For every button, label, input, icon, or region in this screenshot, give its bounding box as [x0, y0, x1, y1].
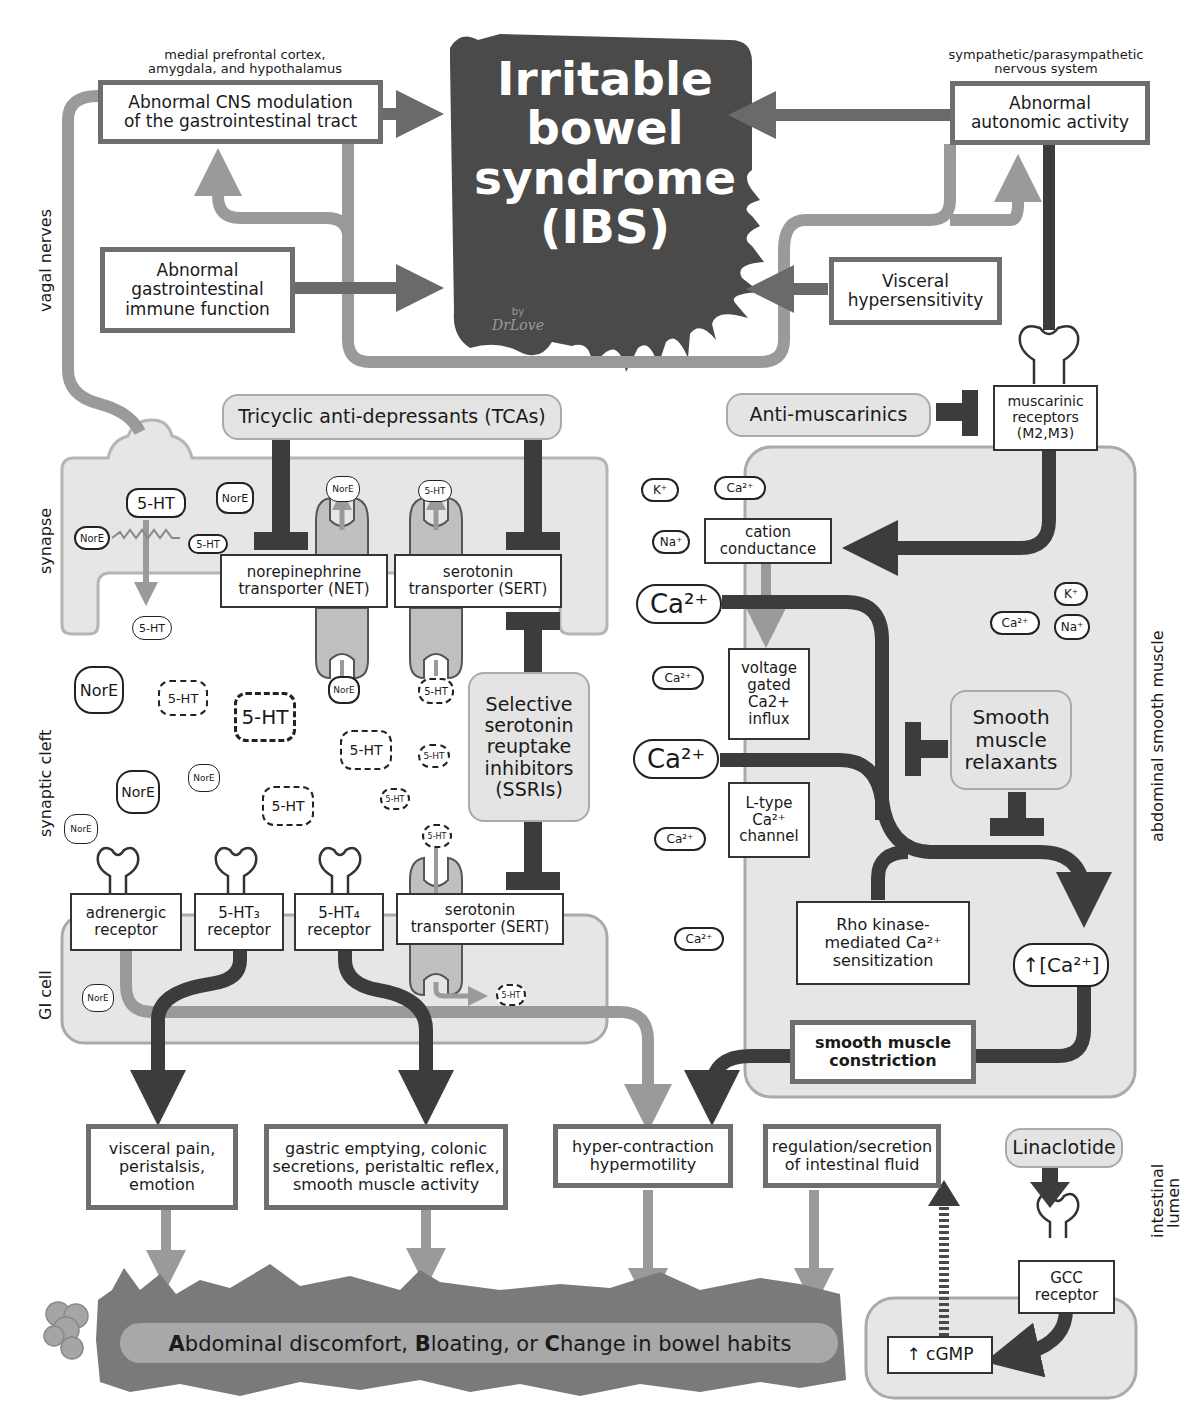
- gastric-line3: smooth muscle activity: [293, 1176, 479, 1194]
- muscarinic-receptors-box: muscarinic receptors (M2,M3): [993, 385, 1098, 451]
- visceral-line1: Visceral: [882, 272, 949, 291]
- 5ht4-line1: 5-HT₄: [318, 905, 359, 922]
- autonomic-box-line1: Abnormal: [1009, 94, 1091, 113]
- smooth-muscle-relaxants-label: Smooth muscle relaxants: [950, 690, 1072, 790]
- ibs-title-line1: Irritable: [470, 54, 740, 103]
- adrenergic-receptor-box: adrenergic receptor: [70, 893, 182, 951]
- autonomic-caption: sympathetic/parasympathetic nervous syst…: [940, 48, 1152, 77]
- ht-molecule: 5-HT: [340, 730, 392, 770]
- synapse-label: synapse: [36, 508, 55, 574]
- cation-conductance-box: cation conductance: [704, 518, 832, 564]
- fluid-line2: of intestinal fluid: [785, 1156, 920, 1174]
- ht-molecule: 5-HT: [234, 692, 296, 742]
- rho-line3: sensitization: [833, 952, 934, 970]
- nore-molecule: NorE: [188, 764, 220, 792]
- ssri-line5: (SSRIs): [495, 779, 563, 800]
- ssri-line1: Selective: [486, 694, 573, 715]
- visceral-pain-line1: visceral pain,: [109, 1140, 215, 1158]
- ht-molecule: 5-HT: [422, 824, 452, 848]
- nore-molecule: NorE: [74, 526, 110, 550]
- abdominal-smooth-muscle-label: abdominal smooth muscle: [1148, 630, 1167, 842]
- immune-line2: gastrointestinal: [131, 280, 264, 299]
- constriction-line2: constriction: [829, 1052, 936, 1070]
- nore-molecule: NorE: [216, 482, 254, 514]
- adrenergic-line2: receptor: [94, 922, 157, 939]
- ltype-line3: channel: [739, 828, 798, 845]
- visceral-hypersensitivity-box: Visceral hypersensitivity: [829, 257, 1002, 325]
- ht-molecule-large: 5-HT: [126, 488, 186, 518]
- hyper-contraction-box: hyper-contraction hypermotility: [553, 1124, 733, 1188]
- ca-ion: Ca²⁺: [714, 476, 766, 500]
- ibs-title-line2: bowel: [470, 103, 740, 152]
- gastric-line2: secretions, peristaltic reflex,: [273, 1158, 500, 1176]
- nore-molecule: NorE: [328, 676, 360, 704]
- symptom-bar-text: Abdominal discomfort, Bloating, or Chang…: [122, 1326, 838, 1362]
- k-ion: K⁺: [1054, 582, 1088, 606]
- ssri-drug-label: Selective serotonin reuptake inhibitors …: [468, 672, 590, 822]
- nore-molecule: NorE: [82, 984, 114, 1012]
- gcc-line1: GCC: [1050, 1270, 1083, 1287]
- autonomic-caption-line2: nervous system: [940, 62, 1152, 76]
- cation-line2: conductance: [720, 541, 816, 558]
- net-line2: transporter (NET): [238, 581, 369, 598]
- ht-molecule: 5-HT: [418, 480, 452, 502]
- cns-modulation-box: Abnormal CNS modulation of the gastroint…: [98, 80, 383, 144]
- symptom-c: C: [545, 1332, 560, 1356]
- ssri-line2: serotonin: [484, 715, 573, 736]
- ca-ion: Ca²⁺: [652, 666, 704, 690]
- signature-by: by: [478, 306, 558, 317]
- symptom-b-rest: loating, or: [431, 1332, 545, 1356]
- gastric-emptying-box: gastric emptying, colonic secretions, pe…: [264, 1124, 508, 1210]
- 5ht3-receptor-box: 5-HT₃ receptor: [194, 893, 284, 951]
- intestinal-lumen-label: intestinal lumen: [1150, 1164, 1182, 1238]
- 5ht3-line1: 5-HT₃: [218, 905, 259, 922]
- ltype-line2: Ca²⁺: [752, 812, 786, 829]
- relaxant-line3: relaxants: [965, 751, 1058, 773]
- ca-ion: Ca²⁺: [654, 827, 706, 851]
- nore-molecule: NorE: [74, 666, 124, 714]
- cns-box-line1: Abnormal CNS modulation: [128, 93, 352, 112]
- constriction-line1: smooth muscle: [815, 1034, 951, 1052]
- cns-caption: medial prefrontal cortex, amygdala, and …: [110, 48, 380, 77]
- ca-ion: Ca²⁺: [990, 611, 1040, 635]
- sert-transporter-box-top: serotonin transporter (SERT): [394, 554, 562, 608]
- ht-molecule: 5-HT: [418, 744, 450, 768]
- ibs-title-line3: syndrome: [470, 153, 740, 202]
- rho-kinase-box: Rho kinase- mediated Ca²⁺ sensitization: [796, 901, 970, 985]
- stool-icon: [44, 1302, 88, 1359]
- sert-bottom-line1: serotonin: [445, 902, 515, 919]
- muscarinic-line1: muscarinic: [1007, 394, 1083, 410]
- vgc-line2: gated: [747, 677, 790, 694]
- intestinal-fluid-box: regulation/secretion of intestinal fluid: [763, 1124, 941, 1188]
- autonomic-activity-box: Abnormal autonomic activity: [950, 81, 1150, 145]
- voltage-gated-box: voltage gated Ca2+ influx: [728, 648, 810, 740]
- smooth-muscle-constriction-box: smooth muscle constriction: [790, 1020, 976, 1084]
- vgc-line3: Ca2+: [748, 694, 790, 711]
- 5ht4-receptor-box: 5-HT₄ receptor: [294, 893, 384, 951]
- 5ht4-line2: receptor: [307, 922, 370, 939]
- vgc-line1: voltage: [741, 660, 797, 677]
- ht-molecule: 5-HT: [380, 788, 410, 810]
- visceral-pain-line2: peristalsis,: [119, 1158, 205, 1176]
- autonomic-box-line2: autonomic activity: [971, 113, 1129, 132]
- synaptic-cleft-label: synaptic cleft: [36, 730, 55, 837]
- net-transporter-box: norepinephrine transporter (NET): [220, 554, 388, 608]
- lumen-line2: lumen: [1164, 1178, 1183, 1238]
- ca-ion-large: Ca²⁺: [636, 584, 722, 624]
- l-type-channel-box: L-type Ca²⁺ channel: [728, 782, 810, 858]
- ssri-line3: reuptake: [487, 736, 571, 757]
- ht-molecule: 5-HT: [132, 616, 172, 640]
- immune-line3: immune function: [125, 300, 270, 319]
- hyper-line1: hyper-contraction: [572, 1138, 714, 1156]
- 5ht3-line2: receptor: [207, 922, 270, 939]
- immune-line1: Abnormal: [157, 261, 239, 280]
- ibs-title: Irritable bowel syndrome (IBS): [470, 54, 740, 251]
- signature-name: DrLove: [478, 317, 558, 333]
- immune-function-box: Abnormal gastrointestinal immune functio…: [100, 247, 295, 333]
- sert-transporter-box-bottom: serotonin transporter (SERT): [396, 893, 564, 945]
- autonomic-caption-line1: sympathetic/parasympathetic: [940, 48, 1152, 62]
- visceral-line2: hypersensitivity: [848, 291, 984, 310]
- vagal-nerves-label: vagal nerves: [36, 209, 55, 312]
- fluid-line1: regulation/secretion: [772, 1138, 932, 1156]
- gcc-receptor-box: GCC receptor: [1018, 1260, 1115, 1314]
